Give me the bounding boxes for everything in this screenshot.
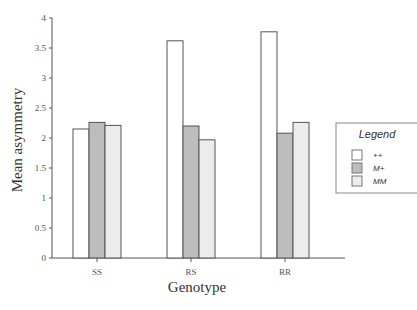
legend: Legend ++M+MM <box>336 123 417 193</box>
x-tick-label: RR <box>279 267 291 277</box>
y-tick-label: 3.5 <box>35 43 47 53</box>
y-tick-label: 4 <box>42 13 47 23</box>
bar-rr-plusplus <box>261 32 277 258</box>
y-tick-label: 0.5 <box>35 223 47 233</box>
legend-label: M+ <box>373 164 385 173</box>
y-tick-label: 2 <box>42 133 47 143</box>
bar-rs-mm <box>199 140 215 258</box>
x-tick-label: SS <box>92 267 102 277</box>
bar-ss-mm <box>105 125 121 258</box>
y-tick-label: 1 <box>42 193 47 203</box>
x-axis: SSRSRR <box>52 258 345 277</box>
bar-rr-mm <box>293 122 309 258</box>
legend-swatch <box>352 176 362 186</box>
bars <box>73 32 309 258</box>
legend-title: Legend <box>359 128 397 140</box>
bar-ss-plusplus <box>73 129 89 258</box>
x-axis-title: Genotype <box>168 279 227 295</box>
x-tick-label: RS <box>185 267 196 277</box>
bar-rs-mplus <box>183 126 199 258</box>
y-tick-label: 1.5 <box>35 163 47 173</box>
y-tick-label: 2.5 <box>35 103 47 113</box>
bar-chart: 00.511.522.533.54 SSRSRR Mean asymmetry … <box>0 0 417 310</box>
legend-label: MM <box>373 177 387 186</box>
y-axis-title: Mean asymmetry <box>9 87 25 192</box>
legend-swatch <box>352 163 362 173</box>
y-tick-label: 3 <box>42 73 47 83</box>
legend-swatch <box>352 150 362 160</box>
bar-rr-mplus <box>277 133 293 258</box>
bar-ss-mplus <box>89 122 105 258</box>
y-tick-label: 0 <box>42 253 47 263</box>
legend-label: ++ <box>373 151 383 160</box>
bar-rs-plusplus <box>167 41 183 258</box>
y-axis: 00.511.522.533.54 <box>35 13 52 263</box>
